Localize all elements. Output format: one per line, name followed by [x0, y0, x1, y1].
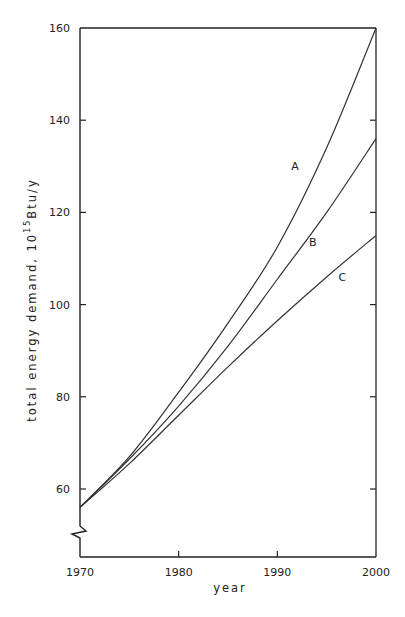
- series-line-a: [80, 28, 376, 507]
- y-tick-label: 100: [49, 299, 70, 312]
- y-axis-title-main: total energy demand, 10: [25, 233, 39, 422]
- x-tick-label: 2000: [362, 566, 390, 579]
- energy-demand-chart: 60801001201401601970198019902000 ABC yea…: [0, 0, 405, 617]
- y-tick-label: 120: [49, 206, 70, 219]
- y-tick-label: 60: [56, 483, 70, 496]
- series-labels: ABC: [291, 160, 346, 284]
- x-axis-title: year: [213, 581, 247, 595]
- y-axis-title: total energy demand, 1015Btu/y: [23, 178, 39, 421]
- plot-frame: [72, 28, 376, 557]
- y-axis-with-break: [72, 28, 86, 557]
- y-tick-label: 160: [49, 22, 70, 35]
- series-lines: [80, 28, 376, 507]
- series-line-c: [80, 235, 376, 507]
- series-label-c: C: [339, 271, 347, 284]
- y-tick-label: 140: [49, 114, 70, 127]
- y-axis-title-exponent: 15: [23, 219, 32, 233]
- x-tick-label: 1980: [165, 566, 193, 579]
- x-tick-label: 1990: [263, 566, 291, 579]
- series-label-a: A: [291, 160, 299, 173]
- axis-ticks: 60801001201401601970198019902000: [49, 22, 390, 579]
- series-label-b: B: [309, 236, 317, 249]
- y-axis-title-unit: Btu/y: [25, 178, 39, 218]
- x-tick-label: 1970: [66, 566, 94, 579]
- y-tick-label: 80: [56, 391, 70, 404]
